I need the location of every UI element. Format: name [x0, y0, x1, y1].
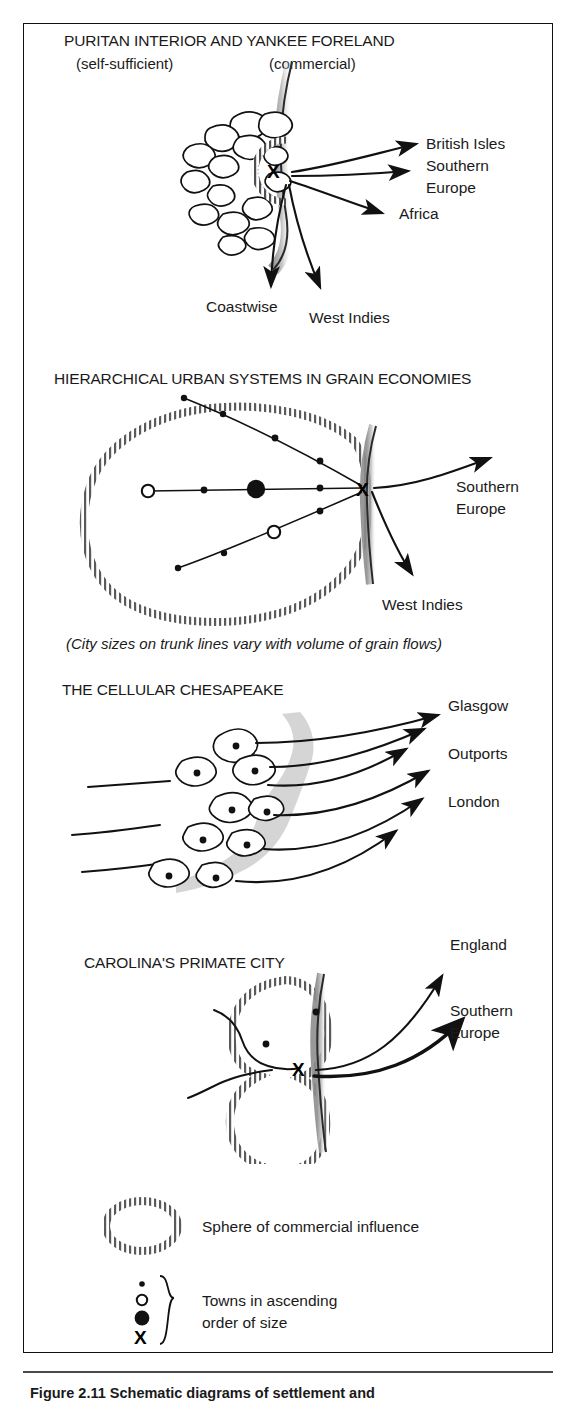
panel-subtitle-left: (self-sufficient): [76, 55, 173, 72]
town-large-filled: [247, 480, 265, 498]
town-small: [221, 550, 227, 556]
panel-subtitle-right: (commercial): [269, 55, 356, 72]
figure-frame: PURITAN INTERIOR AND YANKEE FORELAND (se…: [23, 23, 553, 1353]
destination-label-england: England: [450, 936, 507, 953]
trunk-line-south: [175, 492, 362, 571]
town-small: [201, 487, 208, 494]
legend: Sphere of commercial influence X Towns i…: [24, 1164, 550, 1354]
panel-carolina-primate-city: CAROLINA'S PRIMATE CITY X England Southe…: [24, 904, 550, 1164]
town-small: [317, 508, 324, 515]
panel-title-grain: HIERARCHICAL URBAN SYSTEMS IN GRAIN ECON…: [54, 370, 471, 387]
legend-x-icon: X: [134, 1327, 147, 1348]
destination-label-glasgow: Glasgow: [448, 697, 509, 714]
destination-label-west-indies: West Indies: [309, 309, 390, 326]
cell-cluster-chesapeake: [149, 729, 284, 887]
panel-hierarchical-urban-systems: HIERARCHICAL URBAN SYSTEMS IN GRAIN ECON…: [24, 336, 550, 656]
primate-city-marker-x-carolina: X: [292, 1059, 305, 1080]
destination-label-outports: Outports: [448, 745, 508, 762]
legend-open-circle-icon: [137, 1295, 147, 1305]
legend-sphere-icon: [106, 1201, 178, 1251]
destination-label-southern: Southern: [426, 157, 489, 174]
legend-label-towns-line1: Towns in ascending: [202, 1292, 337, 1309]
legend-label-towns-line2: order of size: [202, 1314, 287, 1331]
town-small: [317, 458, 324, 465]
town-small: [181, 395, 187, 401]
destination-label-british-isles: British Isles: [426, 135, 505, 152]
primate-city-marker-x: X: [267, 161, 280, 182]
town-small: [317, 485, 324, 492]
trade-flow-arrows-carolina: [314, 976, 462, 1077]
town-open-circle: [268, 526, 280, 538]
panel-title-chesapeake: THE CELLULAR CHESAPEAKE: [62, 681, 283, 698]
trunk-line-middle: [142, 480, 362, 498]
sphere-of-influence-grain: [84, 406, 368, 621]
legend-filled-circle-icon: [135, 1311, 150, 1326]
town-small: [220, 411, 226, 417]
destination-label-southern-carolina: Southern: [450, 1002, 513, 1019]
figure-caption: Figure 2.11 Schematic diagrams of settle…: [30, 1382, 550, 1404]
panel-title-puritan: PURITAN INTERIOR AND YANKEE FORELAND: [64, 32, 395, 49]
destination-label-southern-grain: Southern: [456, 478, 519, 495]
panel-puritan-interior: PURITAN INTERIOR AND YANKEE FORELAND (se…: [24, 24, 550, 336]
destination-label-west-indies-grain: West Indies: [382, 596, 463, 613]
panel-title-carolina: CAROLINA'S PRIMATE CITY: [84, 954, 285, 971]
legend-small-dot-icon: [139, 1281, 145, 1287]
destination-label-africa: Africa: [399, 205, 439, 222]
destination-label-london: London: [448, 793, 500, 810]
primate-city-marker-x-grain: X: [356, 479, 369, 500]
town-small: [272, 435, 279, 442]
legend-brace-icon: [160, 1276, 174, 1344]
legend-town-symbols: X: [134, 1281, 149, 1348]
panel-note-grain: (City sizes on trunk lines vary with vol…: [66, 635, 442, 652]
panel-cellular-chesapeake: THE CELLULAR CHESAPEAKE: [24, 667, 550, 907]
destination-label-europe-carolina: Europe: [450, 1024, 500, 1041]
river-network-chesapeake: [72, 781, 170, 872]
caption-rule: [23, 1371, 553, 1373]
legend-label-sphere: Sphere of commercial influence: [202, 1218, 419, 1235]
town-small: [175, 565, 181, 571]
destination-label-europe-grain: Europe: [456, 500, 506, 517]
destination-label-europe: Europe: [426, 179, 476, 196]
destination-label-coastwise: Coastwise: [206, 298, 278, 315]
town-open-circle: [142, 485, 154, 497]
